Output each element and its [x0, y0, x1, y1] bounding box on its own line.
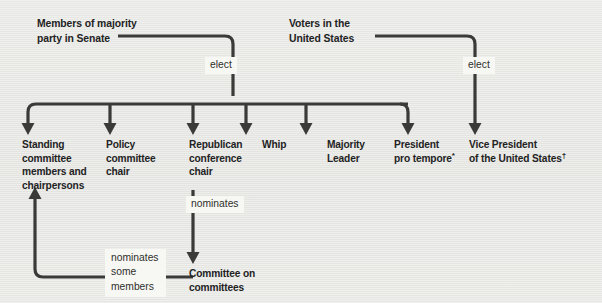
edge-label-elect-left: elect: [205, 57, 237, 74]
node-president-pro-tempore: President pro tempore*: [394, 138, 474, 165]
node-president-pro-tempore-footnote-marker: *: [452, 150, 455, 159]
node-committee-on-committees: Committee on committees: [189, 267, 299, 294]
node-president-pro-tempore-text: President pro tempore: [394, 139, 452, 164]
node-standing-committee-members-and-chairpersons: Standing committee members and chairpers…: [22, 138, 106, 192]
edge-label-elect-right: elect: [463, 57, 495, 74]
edge-label-nominates-some-members: nominates some members: [105, 249, 166, 297]
arrowhead-republican: [187, 123, 200, 135]
wire-voters-to-vp: [375, 36, 475, 124]
arrowhead-whip: [240, 123, 253, 135]
node-whip: Whip: [262, 138, 308, 152]
header-voters-in-the-united-states: Voters in the United States: [289, 17, 354, 46]
node-policy-committee-chair: Policy committee chair: [106, 138, 186, 179]
node-vice-president-text: Vice President of the United States: [469, 139, 562, 164]
arrowhead-standing: [22, 123, 35, 135]
node-republican-conference-chair: Republican conference chair: [189, 138, 261, 179]
arrowhead-vice-president: [469, 123, 482, 135]
diagram-canvas: Members of majority party in Senate Vote…: [0, 0, 602, 303]
arrowhead-majority: [300, 123, 313, 135]
node-vice-president-of-the-united-states: Vice President of the United States†: [469, 138, 591, 165]
arrowhead-committees: [187, 252, 200, 264]
node-majority-leader: Majority Leader: [327, 138, 391, 165]
node-vice-president-footnote-marker: †: [562, 150, 566, 159]
wire-branch-standing: [28, 104, 36, 124]
arrowhead-policy: [104, 123, 117, 135]
arrowhead-pro-tempore: [402, 123, 415, 135]
wire-branch-pro-tempore: [400, 104, 408, 124]
edge-label-nominates: nominates: [186, 196, 244, 213]
header-members-of-majority-party: Members of majority party in Senate: [37, 17, 137, 46]
